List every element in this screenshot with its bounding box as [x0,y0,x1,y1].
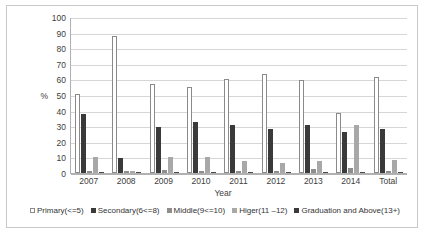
y-tick-label: 30 [57,123,66,132]
bar [392,160,397,173]
plot-area: % 0102030405060708090100 [39,18,407,174]
bar [311,169,316,173]
y-tick-label: 0 [61,170,66,179]
bar [118,158,123,173]
plot-canvas [70,18,407,174]
bar [274,171,279,173]
bar [374,77,379,173]
y-tick-label: 70 [57,61,66,70]
bar [174,172,179,173]
bar [199,171,204,173]
legend-item[interactable]: Primary(<=5) [30,206,84,215]
bar [248,172,253,173]
bar [305,125,310,173]
bar [317,161,322,173]
bar [323,172,328,173]
bar-group [108,18,145,173]
y-tick-label: 50 [57,92,66,101]
legend-label: Primary(<=5) [37,206,84,215]
bar-group [295,18,332,173]
bar [268,129,273,173]
legend-swatch-icon [294,208,299,213]
legend-swatch-icon [91,208,96,213]
bar [124,171,129,173]
bar-group [183,18,220,173]
chart-frame: % 0102030405060708090100 200720082009201… [6,5,418,228]
bar [112,36,117,173]
bar [299,80,304,173]
y-tick-label: 90 [57,29,66,38]
gridline [71,174,407,175]
y-tick-label: 60 [57,76,66,85]
bar [193,122,198,173]
x-tick-label: 2009 [145,176,182,186]
y-axis-title: % [40,92,48,101]
legend-item[interactable]: Secondary(6<=8) [91,206,160,215]
bar-group [71,18,108,173]
bar [162,170,167,173]
legend-label: Graduation and Above(13+) [301,206,400,215]
bar [236,171,241,173]
x-axis-tick-labels: 20072008200920102011201220132014Total [70,176,407,186]
legend-swatch-icon [30,208,35,213]
x-tick-label: 2008 [107,176,144,186]
y-tick-label: 80 [57,45,66,54]
bar [354,125,359,173]
y-tick-label: 10 [57,154,66,163]
legend-swatch-icon [167,208,172,213]
bar-group [146,18,183,173]
bar-group [258,18,295,173]
bar [230,125,235,173]
bar [136,172,141,173]
x-axis-title: Year [39,188,407,198]
y-tick-label: 40 [57,107,66,116]
x-tick-label: 2014 [332,176,369,186]
legend-label: Middle(9<=10) [174,206,226,215]
legend-swatch-icon [232,208,237,213]
bar [386,171,391,173]
legend-item[interactable]: Higer(11 –12) [232,206,287,215]
y-tick-label: 20 [57,139,66,148]
x-tick-label: 2007 [70,176,107,186]
bar [224,79,229,173]
bar [75,94,80,173]
legend-label: Higer(11 –12) [239,206,287,215]
bar [81,114,86,173]
bar [380,129,385,173]
bar [336,113,341,173]
y-tick-label: 100 [52,14,66,23]
legend-item[interactable]: Middle(9<=10) [167,206,226,215]
bar [242,161,247,173]
bar [205,157,210,173]
bar [398,172,403,173]
bar [150,84,155,173]
bar [348,168,353,173]
legend-item[interactable]: Graduation and Above(13+) [294,206,400,215]
bar [342,132,347,173]
bar-group [332,18,369,173]
bar [130,171,135,173]
bar [360,172,365,173]
bar [280,163,285,173]
bar [262,74,267,173]
x-tick-label: 2010 [182,176,219,186]
bar [187,87,192,173]
y-axis: % 0102030405060708090100 [39,18,69,174]
bar [99,172,104,173]
bar [93,157,98,173]
legend-label: Secondary(6<=8) [98,206,160,215]
x-tick-label: Total [370,176,407,186]
bar [87,171,92,173]
bar-group [220,18,257,173]
x-tick-label: 2012 [257,176,294,186]
bar [168,157,173,173]
bar [286,172,291,173]
bar [156,127,161,173]
bar [211,172,216,173]
x-tick-label: 2011 [220,176,257,186]
chart-legend: Primary(<=5)Secondary(6<=8)Middle(9<=10)… [17,206,413,215]
x-tick-label: 2013 [295,176,332,186]
bar-groups [71,18,407,173]
bar-group [370,18,407,173]
